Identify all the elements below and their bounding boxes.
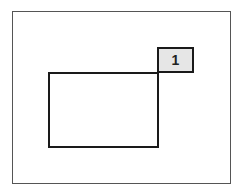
- region-label: 1: [157, 47, 194, 73]
- label-text: 1: [172, 52, 180, 68]
- region-rectangle: [48, 72, 159, 148]
